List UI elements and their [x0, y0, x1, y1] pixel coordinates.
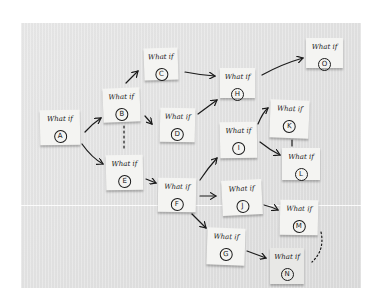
arrow-m-n — [312, 232, 322, 262]
note-label: What if — [220, 73, 255, 81]
note-letter: L — [295, 168, 308, 181]
note-letter: H — [231, 88, 244, 101]
note-label: What if — [306, 43, 343, 51]
note-label: What if — [144, 52, 178, 61]
sticky-note-j: What if J — [221, 179, 263, 216]
sticky-note-h: What if H — [220, 68, 255, 98]
arrow-f-i — [200, 158, 217, 180]
note-label: What if — [280, 205, 318, 214]
note-letter: I — [232, 142, 245, 155]
note-letter: J — [236, 200, 250, 214]
arrow-i-l — [260, 142, 280, 155]
arrow-h-o — [262, 58, 303, 75]
sticky-note-l: What if L — [282, 148, 320, 180]
sticky-note-n: What if N — [270, 248, 304, 284]
note-letter: E — [118, 175, 131, 188]
note-letter: D — [171, 128, 184, 141]
arrow-j-m — [264, 205, 278, 210]
arrow-b-d — [145, 116, 152, 124]
note-label: What if — [282, 153, 320, 161]
arrow-d-h — [198, 100, 217, 114]
note-label: What if — [106, 160, 143, 169]
arrow-a-e — [82, 144, 103, 164]
note-letter: A — [54, 130, 67, 143]
note-label: What if — [40, 115, 80, 124]
sticky-note-e: What if E — [106, 155, 144, 191]
sticky-note-k: What if K — [269, 99, 309, 138]
sticky-note-i: What if I — [220, 122, 258, 159]
sticky-note-d: What if D — [160, 108, 196, 143]
sticky-note-o: What if O — [306, 38, 343, 68]
note-label: What if — [103, 92, 140, 101]
note-label: What if — [221, 184, 261, 194]
sticky-note-c: What if C — [143, 47, 178, 80]
note-letter: O — [318, 58, 331, 71]
sticky-note-g: What if G — [206, 227, 245, 265]
note-letter: K — [283, 120, 296, 133]
note-letter: C — [155, 68, 168, 81]
arrow-b-c — [126, 71, 138, 83]
sticky-note-f: What if F — [158, 178, 197, 213]
note-label: What if — [270, 104, 309, 113]
note-label: What if — [220, 127, 257, 136]
note-letter: B — [115, 108, 128, 121]
sticky-note-m: What if M — [280, 200, 319, 236]
note-letter: G — [219, 248, 232, 261]
arrow-i-k — [258, 108, 268, 124]
arrow-g-n — [247, 251, 266, 258]
sticky-note-b: What if B — [102, 87, 140, 122]
sticky-note-a: What if A — [40, 110, 81, 146]
arrow-e-f — [146, 179, 156, 183]
note-label: What if — [270, 253, 304, 261]
note-label: What if — [158, 183, 196, 192]
note-label: What if — [207, 232, 245, 241]
note-letter: M — [292, 220, 305, 233]
note-letter: F — [170, 198, 183, 211]
note-label: What if — [160, 113, 195, 122]
note-letter: N — [281, 268, 294, 281]
arrow-f-g — [192, 214, 206, 228]
arrow-a-b — [85, 118, 101, 132]
arrow-c-h — [185, 72, 215, 76]
